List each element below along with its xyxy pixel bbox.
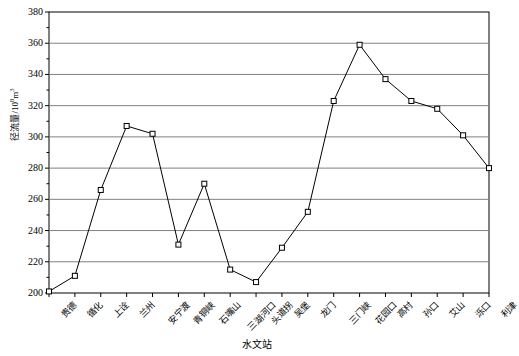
x-axis-title: 水文站 bbox=[0, 336, 514, 351]
data-point-marker bbox=[357, 42, 362, 47]
data-point-marker bbox=[72, 273, 77, 278]
y-axis-tick-label: 280 bbox=[17, 163, 43, 173]
data-point-marker bbox=[150, 131, 155, 136]
data-point-marker bbox=[331, 98, 336, 103]
data-point-marker bbox=[176, 242, 181, 247]
y-axis-tick-label: 240 bbox=[17, 226, 43, 236]
y-axis-tick-label: 340 bbox=[17, 69, 43, 79]
y-axis-tick-label: 300 bbox=[17, 132, 43, 142]
data-point-marker bbox=[487, 166, 492, 171]
data-point-marker bbox=[279, 245, 284, 250]
y-axis-tick-label: 220 bbox=[17, 257, 43, 267]
y-axis-tick-label: 360 bbox=[17, 38, 43, 48]
y-axis-tick-label: 320 bbox=[17, 101, 43, 111]
data-point-marker bbox=[98, 187, 103, 192]
y-axis-tick-label: 200 bbox=[17, 288, 43, 298]
y-axis-tick-label: 380 bbox=[17, 7, 43, 17]
data-point-marker bbox=[409, 98, 414, 103]
data-point-marker bbox=[228, 267, 233, 272]
data-point-marker bbox=[305, 209, 310, 214]
y-axis-tick-label: 260 bbox=[17, 194, 43, 204]
data-point-marker bbox=[124, 123, 129, 128]
data-point-marker bbox=[202, 181, 207, 186]
data-point-marker bbox=[435, 106, 440, 111]
plot-frame bbox=[49, 12, 489, 293]
data-point-marker bbox=[461, 133, 466, 138]
data-point-marker bbox=[383, 77, 388, 82]
data-point-marker bbox=[254, 280, 259, 285]
data-point-marker bbox=[47, 289, 52, 294]
